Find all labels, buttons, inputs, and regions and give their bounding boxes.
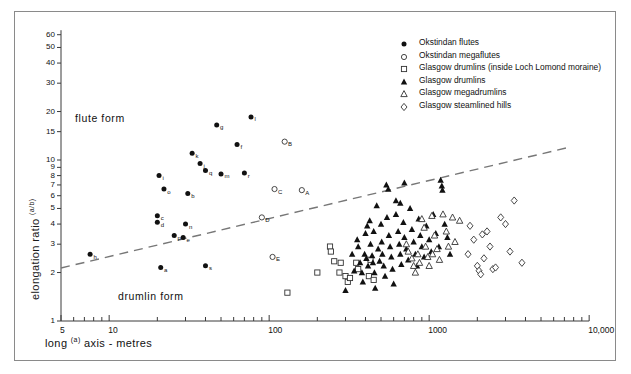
point-label: s [209, 265, 212, 271]
legend-item[interactable]: Okstindan megaflutes [399, 49, 624, 62]
y-axis-tick-label: 60 [35, 30, 55, 39]
legend-item[interactable]: Glasgow megadrumlins [399, 86, 624, 99]
point-label: c [161, 215, 164, 221]
x-axis-tick-label: 100 [268, 325, 282, 335]
y-axis-tick-label: 30 [35, 78, 55, 87]
y-axis-tick-label: 20 [35, 107, 55, 116]
point-label: m [224, 173, 229, 179]
point-label: b [191, 193, 194, 199]
open-triangle-icon [399, 86, 413, 99]
y-axis-tick-label: 8 [35, 171, 55, 180]
point-label: D [265, 217, 269, 223]
point-label: n [189, 224, 192, 230]
x-axis-ticks [61, 315, 589, 321]
point-label: d [161, 222, 164, 228]
y-axis-ticks [57, 35, 61, 321]
region-label-drumlin: drumlin form [118, 290, 184, 302]
x-axis-title: long (a) axis - metres [45, 336, 152, 349]
point-label: r [248, 173, 250, 179]
y-axis-tick-label: 7 [35, 180, 55, 189]
open-circle-icon [399, 49, 413, 62]
open-square-icon [399, 61, 413, 74]
y-axis-tick-label: 1 [35, 316, 55, 325]
point-label: E [276, 256, 280, 262]
x-axis-tick-label: 5 [60, 325, 65, 335]
point-label: o [167, 189, 170, 195]
legend: Okstindan flutesOkstindan megaflutesGlas… [399, 36, 624, 112]
point-label: e [187, 237, 190, 243]
point-label: B [288, 141, 292, 147]
legend-item-label: Glasgow megadrumlins [419, 87, 507, 97]
filled-circle-icon [399, 36, 413, 49]
y-axis-tick-label: 40 [35, 58, 55, 67]
point-label: C [278, 189, 282, 195]
point-label: a [164, 267, 167, 273]
point-label: j [203, 163, 204, 169]
series-filled-triangle [342, 177, 453, 293]
figure-root: 12345678910152030405060510100100010,000h… [0, 0, 631, 374]
x-axis-tick-label: 10 [108, 325, 117, 335]
y-axis-title: elongation ratio (a/b) [28, 199, 41, 301]
x-axis-tick-label: 10,000 [588, 325, 614, 335]
point-label: q [209, 170, 212, 176]
open-diamond-icon [399, 99, 413, 112]
legend-item[interactable]: Glasgow steamlined hills [399, 99, 624, 112]
point-label: g [220, 124, 223, 130]
point-label: f [240, 144, 242, 150]
x-axis-tick-label: 1000 [428, 325, 447, 335]
point-label: i [162, 175, 163, 181]
legend-item-label: Okstindan flutes [419, 37, 479, 47]
point-label: A [305, 190, 309, 196]
legend-item-label: Glasgow steamlined hills [419, 100, 511, 110]
point-label: l [254, 116, 255, 122]
filled-triangle-icon [399, 74, 413, 87]
legend-item-label: Okstindan megaflutes [419, 50, 500, 60]
y-axis-tick-label: 10 [35, 155, 55, 164]
legend-item-label: Glasgow drumlins [419, 75, 486, 85]
legend-item[interactable]: Okstindan flutes [399, 36, 624, 49]
y-axis-tick-label: 15 [35, 127, 55, 136]
region-label-flute: flute form [75, 112, 125, 124]
point-label: k [196, 153, 199, 159]
series-open-square [285, 244, 376, 295]
y-axis-tick-label: 50 [35, 42, 55, 51]
series-open-circle [259, 139, 304, 259]
legend-item[interactable]: Glasgow drumlins (inside Loch Lomond mor… [399, 61, 624, 74]
legend-item-label: Glasgow drumlins (inside Loch Lomond mor… [419, 62, 601, 72]
legend-item[interactable]: Glasgow drumlins [399, 74, 624, 87]
point-label: p [178, 235, 181, 241]
series-open-diamond [465, 197, 525, 278]
point-label: h [93, 254, 96, 260]
